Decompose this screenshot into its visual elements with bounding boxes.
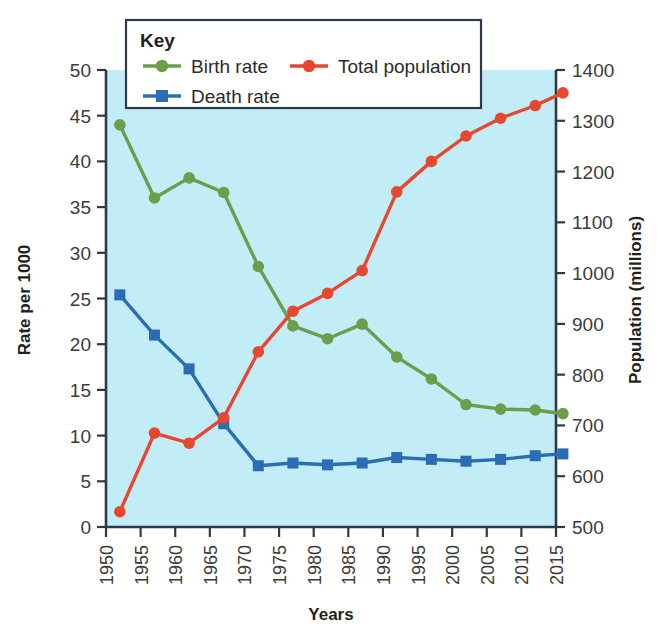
data-point xyxy=(114,289,125,300)
right-tick-label: 700 xyxy=(572,415,604,436)
data-point xyxy=(426,454,437,465)
data-point xyxy=(529,404,541,416)
right-tick-label: 1200 xyxy=(572,162,614,183)
data-point xyxy=(426,373,438,385)
data-point xyxy=(557,408,569,420)
legend-marker-icon xyxy=(156,90,168,102)
x-tick-label: 2000 xyxy=(443,545,463,585)
data-point xyxy=(391,186,403,198)
left-tick-label: 50 xyxy=(70,60,91,81)
left-tick-label: 15 xyxy=(70,380,91,401)
right-tick-label: 1300 xyxy=(572,111,614,132)
legend-entry-label: Total population xyxy=(338,56,471,77)
data-point xyxy=(183,437,195,449)
legend: Key Birth rateTotal populationDeath rate xyxy=(126,20,481,108)
data-point xyxy=(322,333,334,345)
left-axis-tick-labels: 05101520253035404550 xyxy=(70,60,91,538)
data-point xyxy=(149,330,160,341)
data-point xyxy=(460,130,472,142)
x-tick-label: 1955 xyxy=(132,545,152,585)
data-point xyxy=(149,427,161,439)
left-tick-label: 5 xyxy=(80,471,91,492)
x-tick-label: 2005 xyxy=(478,545,498,585)
legend-entry-label: Death rate xyxy=(191,86,280,107)
legend-marker-icon xyxy=(156,60,168,72)
left-tick-label: 45 xyxy=(70,106,91,127)
chart-container: 05101520253035404550 5006007008009001000… xyxy=(0,0,657,632)
data-point xyxy=(391,351,403,363)
x-tick-label: 2015 xyxy=(547,545,567,585)
data-point xyxy=(356,318,368,330)
left-axis-title: Rate per 1000 xyxy=(15,245,34,356)
x-axis-tick-labels: 1950195519601965197019751980198519901995… xyxy=(97,545,567,585)
data-point xyxy=(356,265,368,277)
data-point xyxy=(218,412,230,424)
legend-marker-icon xyxy=(303,60,315,72)
right-axis-title: Population (millions) xyxy=(626,216,645,384)
data-point xyxy=(183,172,195,184)
data-point xyxy=(557,87,569,99)
data-point xyxy=(287,320,299,332)
data-point xyxy=(495,454,506,465)
left-tick-label: 0 xyxy=(80,517,91,538)
data-point xyxy=(426,156,438,168)
data-point xyxy=(322,459,333,470)
data-point xyxy=(287,458,298,469)
data-point xyxy=(461,456,472,467)
data-point xyxy=(253,460,264,471)
x-tick-label: 1995 xyxy=(409,545,429,585)
data-point xyxy=(322,288,334,300)
right-tick-label: 800 xyxy=(572,365,604,386)
x-axis-ticks xyxy=(106,527,556,537)
data-point xyxy=(114,506,126,518)
left-tick-label: 10 xyxy=(70,426,91,447)
x-tick-label: 1960 xyxy=(166,545,186,585)
x-tick-label: 1980 xyxy=(305,545,325,585)
left-tick-label: 20 xyxy=(70,334,91,355)
data-point xyxy=(184,363,195,374)
left-tick-label: 25 xyxy=(70,289,91,310)
data-point xyxy=(253,346,265,358)
data-point xyxy=(557,448,568,459)
right-axis-tick-labels: 50060070080090010001100120013001400 xyxy=(572,60,614,538)
x-tick-label: 1985 xyxy=(339,545,359,585)
left-tick-label: 35 xyxy=(70,197,91,218)
line-chart: 05101520253035404550 5006007008009001000… xyxy=(0,0,657,632)
x-tick-label: 1950 xyxy=(97,545,117,585)
right-tick-label: 600 xyxy=(572,466,604,487)
x-tick-label: 1990 xyxy=(374,545,394,585)
data-point xyxy=(495,112,507,124)
right-tick-label: 900 xyxy=(572,314,604,335)
right-tick-label: 1000 xyxy=(572,263,614,284)
left-tick-label: 30 xyxy=(70,243,91,264)
x-axis-title: Years xyxy=(308,605,353,624)
x-tick-label: 2010 xyxy=(512,545,532,585)
data-point xyxy=(495,403,507,415)
legend-entry-label: Birth rate xyxy=(191,56,268,77)
right-tick-label: 1400 xyxy=(572,60,614,81)
left-tick-label: 40 xyxy=(70,151,91,172)
x-tick-label: 1970 xyxy=(235,545,255,585)
data-point xyxy=(114,119,126,131)
data-point xyxy=(218,187,230,199)
data-point xyxy=(460,399,472,411)
legend-title: Key xyxy=(140,30,175,51)
x-tick-label: 1965 xyxy=(201,545,221,585)
right-tick-label: 1100 xyxy=(572,212,613,233)
right-tick-label: 500 xyxy=(572,517,604,538)
data-point xyxy=(149,192,161,204)
data-point xyxy=(391,452,402,463)
data-point xyxy=(530,450,541,461)
data-point xyxy=(287,305,299,317)
x-tick-label: 1975 xyxy=(270,545,290,585)
left-axis-ticks xyxy=(97,70,106,527)
data-point xyxy=(253,261,265,273)
data-point xyxy=(357,458,368,469)
data-point xyxy=(529,100,541,112)
